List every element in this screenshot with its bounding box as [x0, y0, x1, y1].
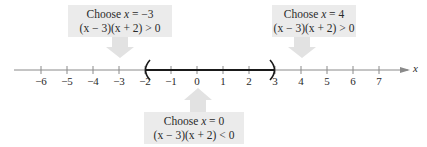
tick-label: −1 — [161, 75, 181, 87]
tick-label: 4 — [291, 75, 311, 87]
test-box-middle: Choose x = 0 (x − 3)(x + 2) < 0 — [144, 112, 244, 144]
expression-line: (x − 3)(x + 2) > 0 — [272, 21, 356, 35]
tick-label: 6 — [343, 75, 363, 87]
tick-label: 1 — [213, 75, 233, 87]
arrow-down-right — [288, 36, 316, 58]
axis-arrowhead — [400, 67, 410, 73]
tick-label: 7 — [369, 75, 389, 87]
tick-label: −6 — [31, 75, 51, 87]
arrow-up-middle — [184, 88, 212, 112]
tick-label: 3 — [265, 75, 285, 87]
tick-label: −3 — [109, 75, 129, 87]
axis-variable-label: x — [413, 62, 418, 74]
test-box-left: Choose x = −3 (x − 3)(x + 2) > 0 — [68, 5, 172, 37]
tick-label: −2 — [135, 75, 155, 87]
tick-label: −5 — [57, 75, 77, 87]
tick-label: 5 — [317, 75, 337, 87]
choose-line: Choose x = −3 — [68, 7, 172, 21]
choose-line: Choose x = 0 — [144, 114, 244, 128]
choose-line: Choose x = 4 — [272, 7, 356, 21]
tick-label: 2 — [239, 75, 259, 87]
arrow-down-left — [106, 36, 134, 58]
test-box-right: Choose x = 4 (x − 3)(x + 2) > 0 — [272, 5, 356, 37]
expression-line: (x − 3)(x + 2) < 0 — [144, 128, 244, 142]
expression-line: (x − 3)(x + 2) > 0 — [68, 21, 172, 35]
tick-label: 0 — [187, 75, 207, 87]
tick-label: −4 — [83, 75, 103, 87]
